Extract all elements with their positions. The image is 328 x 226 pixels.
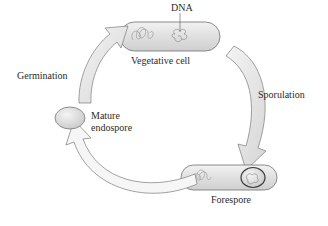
dna-label: DNA bbox=[171, 2, 193, 13]
forespore-label: Forespore bbox=[211, 194, 251, 205]
mature-endospore-label-line2: endospore bbox=[91, 122, 132, 133]
endospore-cycle-diagram bbox=[0, 0, 328, 226]
vegetative-cell-label: Vegetative cell bbox=[131, 55, 190, 66]
mature-endospore-label-line1: Mature bbox=[91, 110, 120, 121]
sporulation-label: Sporulation bbox=[258, 89, 305, 100]
germination-label: Germination bbox=[17, 70, 68, 81]
forespore-compartment bbox=[241, 168, 265, 188]
mature-endospore bbox=[55, 107, 85, 129]
sporulation-arrow bbox=[226, 46, 266, 170]
germination-arrow bbox=[79, 26, 128, 103]
vegetative-cell bbox=[120, 13, 220, 51]
